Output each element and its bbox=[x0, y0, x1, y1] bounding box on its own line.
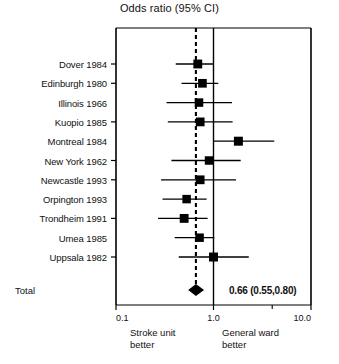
study-marker bbox=[196, 175, 205, 184]
axis-footnote-right-line: better bbox=[222, 339, 279, 351]
x-tick-label: 1.0 bbox=[207, 313, 220, 323]
x-tick-label: 0.1 bbox=[116, 313, 129, 323]
axis-footnote-left-line: better bbox=[130, 339, 175, 351]
study-marker bbox=[195, 98, 203, 106]
study-marker bbox=[180, 214, 189, 223]
study-marker bbox=[198, 79, 207, 88]
x-tick-label: 10.0 bbox=[293, 313, 311, 323]
total-summary-text: 0.66 (0.55,0.80) bbox=[229, 285, 296, 296]
axis-footnote-right: General wardbetter bbox=[222, 327, 279, 351]
study-marker bbox=[193, 60, 202, 69]
forest-plot-figure: Odds ratio (95% CI) Dover 1984Edinburgh … bbox=[0, 0, 339, 364]
total-diamond bbox=[188, 284, 204, 296]
study-marker bbox=[234, 137, 243, 146]
axis-footnote-left: Stroke unitbetter bbox=[130, 327, 175, 351]
axis-footnote-right-line: General ward bbox=[222, 327, 279, 339]
study-marker bbox=[209, 253, 218, 262]
study-marker bbox=[182, 195, 190, 203]
axis-footnote-left-line: Stroke unit bbox=[130, 327, 175, 339]
forest-plot-canvas: 0.11.010.0 bbox=[0, 0, 339, 364]
study-marker bbox=[205, 156, 213, 164]
study-marker bbox=[195, 233, 203, 241]
study-marker bbox=[196, 118, 205, 127]
